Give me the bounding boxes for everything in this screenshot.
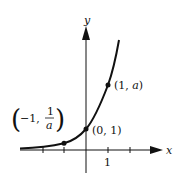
y-axis-arrow-icon (82, 26, 90, 40)
point-label-zero: (0, 1) (92, 124, 122, 137)
point-label-one: (1, a) (114, 79, 143, 92)
point-neg-one (62, 141, 67, 146)
svg-text:−1,: −1, (20, 112, 40, 125)
point-one (106, 83, 111, 88)
x-axis-arrow-icon (150, 146, 163, 154)
svg-text:a: a (46, 119, 53, 132)
x-tick-label-1: 1 (104, 156, 111, 169)
svg-text:): ) (55, 104, 65, 134)
y-axis-label: y (83, 14, 91, 27)
x-axis-label: x (166, 144, 173, 157)
svg-text:1: 1 (47, 105, 54, 118)
point-zero (84, 127, 89, 132)
exponential-graph: y x 1 (1, a) (0, 1) ( −1, 1 a ) (0, 0, 181, 179)
point-label-neg-one: ( −1, 1 a ) (11, 104, 65, 134)
